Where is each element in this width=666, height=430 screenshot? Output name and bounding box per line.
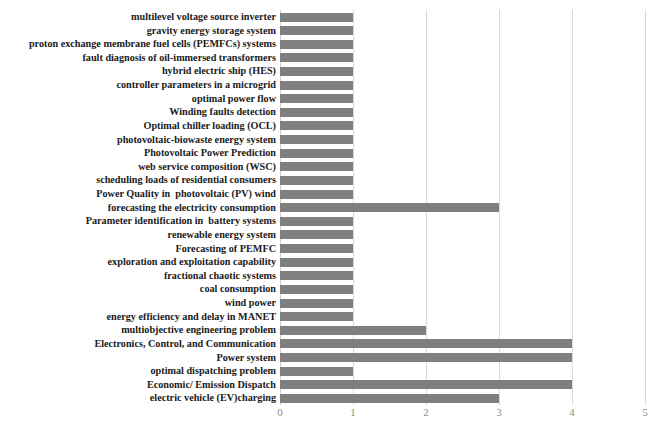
bar (280, 67, 353, 76)
bar-row (280, 201, 645, 215)
bar-row (280, 133, 645, 147)
bar (280, 353, 572, 362)
bars-container (280, 10, 645, 405)
category-label: energy efficiency and delay in MANET (0, 310, 276, 324)
bar (280, 94, 353, 103)
bar-row (280, 160, 645, 174)
bar-row (280, 351, 645, 365)
category-axis-labels: multilevel voltage source invertergravit… (0, 10, 276, 405)
bar-row (280, 24, 645, 38)
category-label: multiobjective engineering problem (0, 323, 276, 337)
bar-row (280, 78, 645, 92)
horizontal-bar-chart: multilevel voltage source invertergravit… (0, 0, 666, 430)
bar-row (280, 119, 645, 133)
bar-row (280, 269, 645, 283)
bar-row (280, 64, 645, 78)
bar (280, 81, 353, 90)
bar-row (280, 173, 645, 187)
gridline-5 (645, 10, 646, 405)
category-label: Photovoltaic Power Prediction (0, 146, 276, 160)
bar (280, 108, 353, 117)
bar-row (280, 37, 645, 51)
x-tick-label: 1 (350, 406, 356, 418)
bar (280, 162, 353, 171)
category-label: scheduling loads of residential consumer… (0, 173, 276, 187)
category-label: multilevel voltage source inverter (0, 10, 276, 24)
bar-row (280, 337, 645, 351)
bar (280, 13, 353, 22)
category-label: coal consumption (0, 282, 276, 296)
category-label: Winding faults detection (0, 105, 276, 119)
bar-row (280, 364, 645, 378)
bar (280, 149, 353, 158)
bar-row (280, 242, 645, 256)
bar-row (280, 92, 645, 106)
category-label: Economic/ Emission Dispatch (0, 378, 276, 392)
bar (280, 367, 353, 376)
bar-row (280, 105, 645, 119)
bar (280, 244, 353, 253)
bar-row (280, 310, 645, 324)
plot-area (280, 10, 645, 405)
category-label: Power Quality in photovoltaic (PV) wind (0, 187, 276, 201)
category-label: Electronics, Control, and Communication (0, 337, 276, 351)
bar (280, 394, 499, 403)
category-label: wind power (0, 296, 276, 310)
bar (280, 26, 353, 35)
bar (280, 176, 353, 185)
bar-row (280, 255, 645, 269)
category-label: electric vehicle (EV)charging (0, 391, 276, 405)
bar (280, 339, 572, 348)
category-label: optimal power flow (0, 92, 276, 106)
bar (280, 190, 353, 199)
x-tick-label: 3 (496, 406, 502, 418)
bar (280, 258, 353, 267)
bar (280, 53, 353, 62)
category-label: web service composition (WSC) (0, 160, 276, 174)
bar-row (280, 214, 645, 228)
x-tick-label: 4 (569, 406, 575, 418)
x-tick-label: 0 (277, 406, 283, 418)
category-label: gravity energy storage system (0, 24, 276, 38)
bar (280, 285, 353, 294)
category-label: Optimal chiller loading (OCL) (0, 119, 276, 133)
category-label: fault diagnosis of oil-immersed transfor… (0, 51, 276, 65)
category-label: photovoltaic-biowaste energy system (0, 133, 276, 147)
bar-row (280, 323, 645, 337)
category-label: hybrid electric ship (HES) (0, 64, 276, 78)
bar (280, 230, 353, 239)
category-label: controller parameters in a microgrid (0, 78, 276, 92)
bar (280, 380, 572, 389)
bar (280, 203, 499, 212)
bar-row (280, 228, 645, 242)
bar-row (280, 10, 645, 24)
x-axis-tick-labels: 012345 (280, 406, 645, 426)
bar (280, 135, 353, 144)
bar (280, 217, 353, 226)
x-tick-label: 2 (423, 406, 429, 418)
bar (280, 312, 353, 321)
category-label: renewable energy system (0, 228, 276, 242)
bar-row (280, 146, 645, 160)
bar (280, 271, 353, 280)
category-label: proton exchange membrane fuel cells (PEM… (0, 37, 276, 51)
category-label: Parameter identification in battery syst… (0, 214, 276, 228)
category-label: exploration and exploitation capability (0, 255, 276, 269)
category-label: forecasting the electricity consumption (0, 201, 276, 215)
bar (280, 121, 353, 130)
bar-row (280, 378, 645, 392)
category-label: optimal dispatching problem (0, 364, 276, 378)
bar-row (280, 391, 645, 405)
bar (280, 326, 426, 335)
bar (280, 40, 353, 49)
x-tick-label: 5 (642, 406, 648, 418)
category-label: Forecasting of PEMFC (0, 242, 276, 256)
category-label: fractional chaotic systems (0, 269, 276, 283)
bar-row (280, 187, 645, 201)
bar-row (280, 296, 645, 310)
bar-row (280, 282, 645, 296)
bar-row (280, 51, 645, 65)
bar (280, 299, 353, 308)
category-label: Power system (0, 351, 276, 365)
